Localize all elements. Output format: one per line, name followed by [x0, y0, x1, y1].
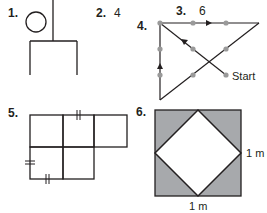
problem-3-answer: 6 — [199, 4, 206, 18]
side-length-right: 1 m — [246, 147, 264, 159]
circle-shape — [26, 12, 46, 32]
arrow-up-icon — [157, 63, 163, 69]
problem-2: 2. 4 — [96, 6, 121, 20]
problem-6-number: 6. — [136, 105, 146, 119]
problem-6: 6. 1 m 1 m — [136, 105, 264, 212]
path-lines — [160, 23, 259, 100]
problem-4: 4. Start — [137, 19, 259, 100]
square-grid — [30, 115, 127, 179]
problem-3: 3. 6 — [176, 4, 206, 18]
problem-5: 5. — [8, 106, 127, 184]
problem-2-number: 2. — [96, 6, 106, 20]
problem-1: 1. — [8, 0, 77, 75]
side-length-bottom: 1 m — [189, 200, 207, 212]
problem-1-number: 1. — [8, 6, 18, 20]
exercise-figures: 1. 2. 4 3. 6 4. — [0, 0, 267, 213]
problem-3-number: 3. — [176, 4, 186, 18]
problem-5-number: 5. — [8, 106, 18, 120]
start-label: Start — [232, 70, 255, 82]
problem-2-answer: 4 — [114, 6, 121, 20]
start-dot — [223, 72, 228, 77]
problem-4-number: 4. — [137, 19, 147, 33]
arrow-right-icon — [206, 20, 212, 26]
